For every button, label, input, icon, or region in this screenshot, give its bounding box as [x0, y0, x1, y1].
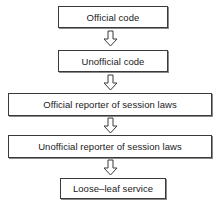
node-label: Unofficial code	[82, 56, 145, 67]
down-block-arrow-icon	[102, 159, 119, 176]
flowchart-node-official-code: Official code	[58, 6, 168, 28]
flowchart-node-looseleaf-service: Loose–leaf service	[60, 178, 166, 199]
down-block-arrow-icon	[102, 74, 119, 91]
node-label: Loose–leaf service	[73, 183, 153, 194]
flowchart-node-unofficial-code: Unofficial code	[58, 50, 168, 72]
flowchart-node-unofficial-reporter: Unofficial reporter of session laws	[8, 135, 212, 158]
node-label: Official reporter of session laws	[43, 99, 176, 110]
flowchart-node-official-reporter: Official reporter of session laws	[8, 93, 212, 116]
down-block-arrow-icon	[102, 30, 119, 47]
flowchart-diagram: Official code Unofficial code Official r…	[0, 0, 220, 201]
down-block-arrow-icon	[102, 117, 119, 134]
node-label: Unofficial reporter of session laws	[38, 141, 182, 152]
node-label: Official code	[87, 12, 140, 23]
